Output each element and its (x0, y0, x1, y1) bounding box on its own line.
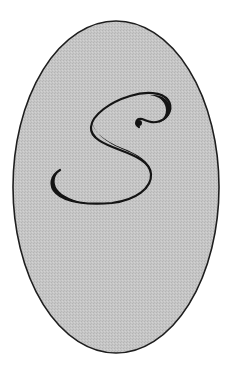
oval-frame (13, 21, 219, 353)
letter-label: S (0, 0, 11, 4)
monogram-emblem: S (0, 0, 234, 366)
